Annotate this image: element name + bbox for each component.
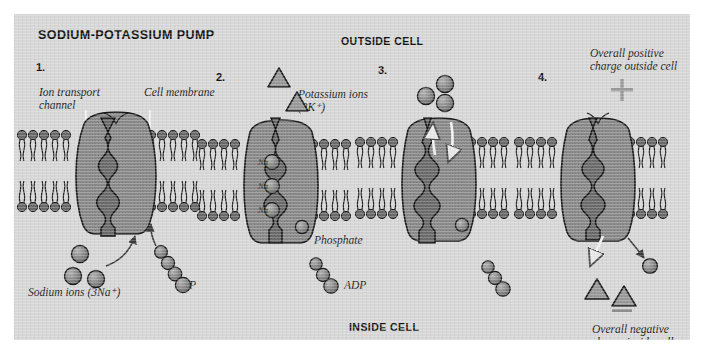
panel-1-artwork	[17, 110, 199, 293]
sodium-ions-group-1	[65, 246, 105, 288]
sodium-entry-arrow	[106, 236, 135, 266]
figure-canvas: SODIUM-POTASSIUM PUMP OUTSIDE CELL INSID…	[0, 0, 726, 360]
membrane-bilayer-left-4	[514, 137, 556, 218]
atp-arrow	[151, 224, 156, 246]
negative-charge-symbol	[612, 309, 632, 312]
pump-protein-1	[76, 112, 156, 236]
membrane-bilayer-left-1	[17, 130, 70, 211]
released-phosphate-4	[643, 259, 658, 274]
pump-protein-4	[561, 113, 635, 241]
positive-charge-symbol	[611, 79, 633, 101]
na-text-1: Na	[257, 157, 268, 167]
bound-phosphate	[295, 220, 308, 233]
phosphate-release-arrow	[628, 238, 644, 258]
released-sodium-3	[417, 75, 453, 111]
membrane-bilayer-left-3	[355, 137, 397, 218]
potassium-triangles-2	[268, 68, 308, 111]
pump-protein-2: Na Na Na	[244, 118, 318, 243]
adp-molecule-3	[482, 261, 510, 296]
panel-3-artwork	[355, 75, 510, 296]
pump-protein-3	[402, 118, 476, 243]
released-potassium-4	[585, 279, 636, 306]
bound-phosphate-3	[455, 218, 468, 231]
adp-molecule-2	[310, 258, 338, 293]
na-text-2: Na	[257, 181, 268, 191]
na-text-3: Na	[257, 205, 268, 215]
diagram-artwork: Na Na Na	[14, 14, 690, 340]
atp-molecule-1	[155, 246, 191, 293]
panel-2-artwork: Na Na Na	[197, 68, 350, 293]
diagram-plate: SODIUM-POTASSIUM PUMP OUTSIDE CELL INSID…	[14, 14, 690, 340]
panel-4-artwork	[514, 79, 667, 312]
membrane-bilayer-left-2	[197, 139, 239, 220]
